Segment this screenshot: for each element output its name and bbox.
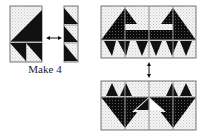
arrow-vertical: [147, 62, 151, 78]
unit-large: [10, 6, 42, 62]
block-bottom: [101, 81, 196, 130]
unit-strip: [64, 6, 78, 62]
arrow-horizontal: [46, 36, 62, 40]
make-count-label: Make 4: [22, 63, 68, 75]
block-top: [101, 6, 196, 58]
